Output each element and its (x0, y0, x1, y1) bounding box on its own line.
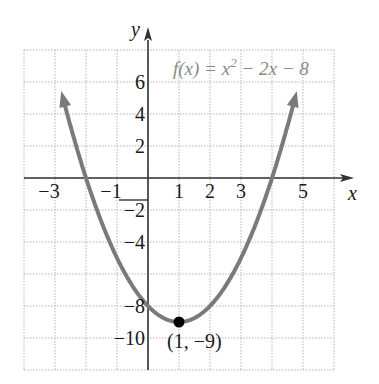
vertex-point (174, 317, 185, 328)
y-tick-label: −10 (114, 327, 145, 349)
x-tick-label: 5 (298, 180, 308, 202)
curve-left-arrow-icon (59, 91, 71, 108)
y-axis-arrow-icon (144, 27, 152, 41)
y-tick-label: 6 (135, 71, 145, 93)
y-tick-label: −4 (124, 231, 145, 253)
y-tick-label: 4 (135, 103, 145, 125)
parabola-chart: xy −3−11235642−2−4−8−10 (1, −9)f(x) = x2… (0, 0, 379, 384)
x-tick-label: 1 (174, 180, 184, 202)
x-tick-label: −1 (100, 180, 121, 202)
x-tick-label: 2 (205, 180, 215, 202)
y-tick-label: −2 (124, 199, 145, 221)
x-tick-label: −3 (38, 180, 59, 202)
x-tick-label: 3 (236, 180, 246, 202)
vertex-label: (1, −9) (167, 330, 222, 353)
annotations: (1, −9)f(x) = x2 − 2x − 8 (167, 55, 309, 353)
function-label: f(x) = x2 − 2x − 8 (173, 55, 309, 80)
y-axis-label: y (129, 18, 140, 41)
curve-right-arrow-icon (287, 91, 299, 108)
y-tick-label: −8 (124, 295, 145, 317)
x-axis-label: x (347, 182, 357, 204)
y-tick-label: 2 (135, 135, 145, 157)
parabola-path (64, 101, 295, 322)
